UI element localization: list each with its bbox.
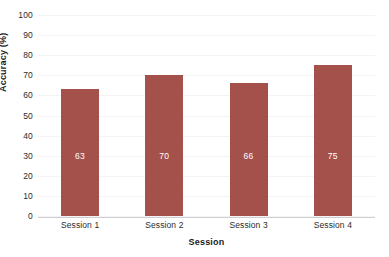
x-tick-label-session-4: Session 4 [291,220,375,230]
bar-value-label-session-4: 75 [328,151,338,161]
y-tick-label-60: 60 [3,90,33,100]
bar-value-label-session-1: 63 [75,151,85,161]
y-tick-label-10: 10 [3,191,33,201]
y-tick-label-90: 90 [3,30,33,40]
y-axis-title: Accuracy (%) [0,33,8,92]
plot-area: 0 10 20 30 40 50 60 70 80 90 100 63 70 [38,15,375,216]
gridline-0 [38,216,375,217]
bar-group-session-2: 70 [122,15,206,216]
y-tick-label-70: 70 [3,70,33,80]
y-tick-label-100: 100 [3,10,33,20]
y-tick-label-50: 50 [3,111,33,121]
y-tick-label-0: 0 [3,211,33,221]
bar-value-label-session-2: 70 [159,151,169,161]
bar-group-session-3: 66 [207,15,291,216]
x-tick-label-session-1: Session 1 [38,220,122,230]
bar-group-session-1: 63 [38,15,122,216]
x-tick-label-session-3: Session 3 [207,220,291,230]
x-tick-label-session-2: Session 2 [122,220,206,230]
y-tick-label-20: 20 [3,171,33,181]
bar-session-3[interactable]: 66 [230,83,268,216]
y-tick-label-40: 40 [3,131,33,141]
bar-value-label-session-3: 66 [244,151,254,161]
y-tick-label-30: 30 [3,151,33,161]
bar-session-4[interactable]: 75 [314,65,352,216]
x-axis-title: Session [38,237,375,247]
bar-group-session-4: 75 [291,15,375,216]
bar-session-1[interactable]: 63 [61,89,99,216]
bar-session-2[interactable]: 70 [145,75,183,216]
bar-chart: Accuracy (%) 0 10 20 30 40 50 60 70 80 9… [0,0,389,257]
y-tick-label-80: 80 [3,50,33,60]
